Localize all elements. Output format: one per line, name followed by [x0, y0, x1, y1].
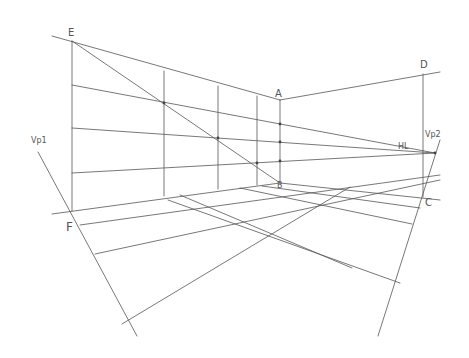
floor-left-row-1: [80, 175, 440, 225]
point-label-a: A: [275, 89, 282, 99]
vp2-measuring-line: [378, 140, 440, 336]
perspective-diagram: [0, 0, 469, 358]
point-label-c: C: [425, 198, 432, 208]
left-wall-top-edge: [52, 36, 280, 100]
diagonal-E-to-B: [72, 41, 280, 183]
point-label-vp1: Vp1: [31, 137, 47, 145]
diag-intersection-2: [217, 137, 220, 140]
floor-left-row-3: [122, 187, 350, 324]
left-wall-row-1: [72, 85, 435, 153]
ab-tick-1: [279, 123, 282, 126]
floor-right-row-2: [240, 188, 412, 224]
ab-tick-3: [279, 160, 282, 163]
point-label-e: E: [68, 28, 74, 38]
diag-intersection-3: [256, 162, 259, 165]
vp2-point: [434, 152, 437, 155]
point-label-hl: HL: [398, 143, 408, 151]
point-label-f: F: [66, 221, 73, 233]
point-label-vp2: Vp2: [425, 131, 441, 139]
point-label-b: B: [277, 182, 283, 190]
left-wall-row-3: [72, 153, 435, 173]
left-wall-row-2: [72, 128, 435, 153]
ab-tick-2: [279, 141, 282, 144]
diagram-lines: [0, 0, 469, 358]
right-wall-top-edge: [280, 72, 440, 100]
diag-intersection-1: [163, 102, 166, 105]
floor-left-row-2: [95, 180, 440, 254]
point-label-d: D: [420, 60, 428, 70]
vp1-measuring-line: [38, 152, 137, 336]
floor-right-row-4: [168, 200, 400, 283]
floor-back-edge-left: [52, 183, 280, 214]
